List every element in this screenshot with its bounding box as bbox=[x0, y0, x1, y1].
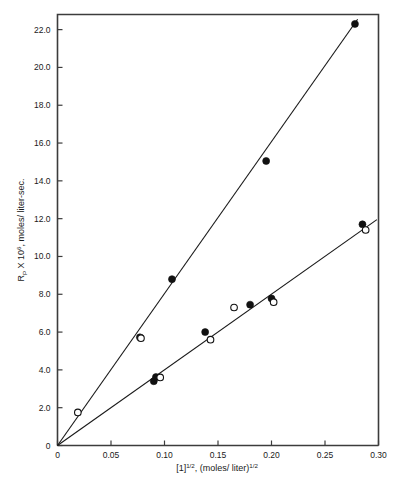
y-tick-label-6: 12.0 bbox=[34, 214, 51, 224]
y-tick-label-7: 14.0 bbox=[34, 176, 51, 186]
data-point-lower-line-filled-3 bbox=[247, 301, 254, 308]
data-point-lower-line-open-4 bbox=[362, 227, 369, 234]
y-tick-label-9: 18.0 bbox=[34, 100, 51, 110]
x-tick-label-5: 0.25 bbox=[317, 450, 334, 460]
y-tick-label-2: 4.0 bbox=[39, 365, 51, 375]
x-tick-label-4: 0.20 bbox=[263, 450, 280, 460]
y-tick-label-11: 22.0 bbox=[34, 25, 51, 35]
scatter-plot: 00.050.100.150.200.250.30 02.04.06.08.01… bbox=[0, 0, 400, 481]
y-axis-title: RP X 106, moles/ liter-sec. bbox=[15, 178, 28, 281]
data-point-lower-line-filled-2 bbox=[202, 329, 209, 336]
y-tick-label-1: 2.0 bbox=[39, 403, 51, 413]
y-tick-label-0: 0 bbox=[46, 441, 51, 451]
data-point-upper-line-open-1 bbox=[138, 335, 145, 342]
x-tick-label-3: 0.15 bbox=[210, 450, 227, 460]
data-point-upper-line-open-0 bbox=[75, 409, 82, 416]
plot-background bbox=[0, 0, 400, 481]
data-point-upper-line-filled-3 bbox=[351, 20, 358, 27]
y-tick-label-10: 20.0 bbox=[34, 62, 51, 72]
data-point-lower-line-open-1 bbox=[207, 336, 214, 343]
x-tick-label-2: 0.10 bbox=[156, 450, 173, 460]
x-tick-label-0: 0 bbox=[55, 450, 60, 460]
data-point-lower-line-open-2 bbox=[231, 304, 238, 311]
y-tick-label-4: 8.0 bbox=[39, 289, 51, 299]
x-tick-label-6: 0.30 bbox=[370, 450, 387, 460]
svg-text:RP X 106, moles/ liter-sec.: RP X 106, moles/ liter-sec. bbox=[15, 178, 28, 281]
y-tick-label-8: 16.0 bbox=[34, 138, 51, 148]
figure-container: 00.050.100.150.200.250.30 02.04.06.08.01… bbox=[0, 0, 400, 481]
data-point-lower-line-open-0 bbox=[157, 374, 164, 381]
y-tick-label-5: 10.0 bbox=[34, 251, 51, 261]
data-point-lower-line-open-3 bbox=[270, 299, 277, 306]
data-point-upper-line-filled-1 bbox=[168, 276, 175, 283]
data-point-upper-line-filled-2 bbox=[263, 158, 270, 165]
x-tick-label-1: 0.05 bbox=[103, 450, 120, 460]
y-tick-label-3: 6.0 bbox=[39, 327, 51, 337]
